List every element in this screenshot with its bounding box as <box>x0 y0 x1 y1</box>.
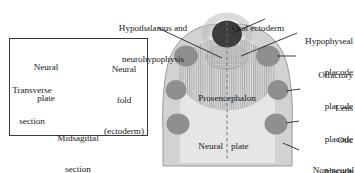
main-label-prosencephalon: Prosencephalon <box>188 73 266 124</box>
main-label-hypothalamus-neurohypophysis: Hypothalamus and neurohypophysis <box>107 3 199 85</box>
inset-label-midsagittal-section: Midsagittal section <box>49 113 107 173</box>
figure-root: Neural plate Neural fold (ectoderm) Tran… <box>0 0 355 173</box>
main-label-non-neural-ectoderm: Non-neural ectoderm <box>283 145 354 173</box>
main-label-midline: midline <box>200 159 254 173</box>
